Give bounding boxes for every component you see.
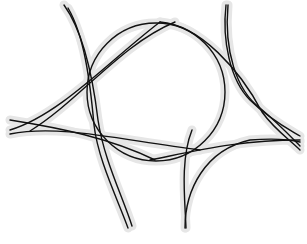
halo-layer (10, 5, 300, 228)
upper-left-sweep-b-halo (30, 22, 175, 131)
circle-diagram (0, 0, 307, 244)
